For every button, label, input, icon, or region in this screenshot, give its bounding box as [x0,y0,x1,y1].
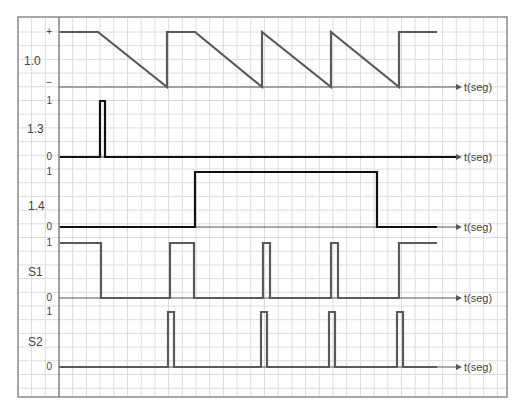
time-axis-label-s2: t(seg) [464,362,492,373]
arrow-right-icon [456,84,462,90]
panel-label-s2: S2 [28,336,43,348]
time-axis-label-1-3: t(seg) [464,152,492,163]
tick-1-0-plus: + [38,27,52,37]
tick-s2-one: 1 [38,307,52,317]
waveform-s2 [60,312,437,367]
tick-s1-zero: 0 [38,293,52,303]
tick-1-4-one: 1 [38,167,52,177]
tick-s2-zero: 0 [38,362,52,372]
time-axis-label-s1: t(seg) [464,293,492,304]
waveform-1-4 [60,172,437,227]
time-axis-label-1-0: t(seg) [464,82,492,93]
panel-label-1-4: 1.4 [28,200,45,212]
panel-label-s1: S1 [28,266,43,278]
arrow-right-icon [456,364,462,370]
panel-label-1-0: 1.0 [24,55,41,67]
timing-diagram [0,0,520,419]
arrow-right-icon [456,295,462,301]
time-axis-label-1-4: t(seg) [464,222,492,233]
tick-s1-one: 1 [38,238,52,248]
tick-1-4-zero: 0 [38,222,52,232]
arrow-right-icon [456,224,462,230]
waveform-1-3 [60,101,456,157]
panel-label-1-3: 1.3 [27,123,44,135]
tick-1-0-minus: − [38,78,52,88]
tick-1-3-one: 1 [38,96,52,106]
tick-1-3-zero: 0 [38,152,52,162]
